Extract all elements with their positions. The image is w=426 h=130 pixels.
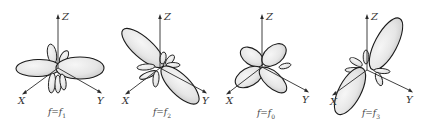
y-axis-label: Y (97, 96, 104, 106)
caption-text: f=f (48, 107, 62, 117)
lobes-f0 (232, 39, 292, 97)
caption-subscript: 1 (62, 112, 66, 119)
z-axis-label: Z (62, 12, 69, 22)
caption-f0: f=f0 (257, 109, 275, 120)
panel-f3 (328, 13, 413, 119)
z-axis-label: Z (266, 12, 273, 22)
caption-subscript: 3 (376, 113, 380, 120)
caption-f3: f=f3 (362, 109, 380, 120)
z-axis-label: Z (371, 12, 378, 22)
y-axis-label: Y (202, 96, 209, 106)
x-axis-label: X (18, 96, 25, 106)
lobes-f2 (116, 23, 205, 110)
panel-f1 (16, 14, 104, 95)
radiation-pattern-figure: Z X Y Z X Y Z X Y Z X Y f=f1 f=f2 f=f0 f… (0, 0, 426, 130)
caption-f1: f=f1 (48, 108, 66, 119)
caption-text: f=f (153, 107, 167, 117)
caption-text: f=f (257, 108, 271, 118)
lobes-f3 (328, 13, 409, 119)
caption-subscript: 2 (167, 112, 171, 119)
x-axis-label: X (122, 96, 129, 106)
y-axis-label: Y (406, 95, 413, 105)
z-axis-label: Z (164, 12, 171, 22)
caption-subscript: 0 (271, 113, 275, 120)
panel-f0 (226, 14, 309, 97)
x-axis-label: X (226, 96, 233, 106)
lobes-f1 (16, 43, 104, 93)
y-axis-label: Y (302, 95, 309, 105)
caption-text: f=f (362, 108, 376, 118)
caption-f2: f=f2 (153, 108, 171, 119)
panel-f2 (116, 14, 207, 110)
x-axis-label: X (330, 97, 337, 107)
